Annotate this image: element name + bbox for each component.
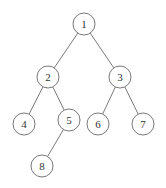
node-label: 6 — [95, 118, 101, 130]
tree-node-1: 1 — [73, 13, 95, 35]
node-label: 4 — [21, 118, 27, 130]
nodes: 1 2 3 4 5 6 7 8 — [13, 13, 154, 177]
node-label: 2 — [45, 71, 51, 83]
tree-node-4: 4 — [13, 113, 35, 135]
node-label: 1 — [81, 18, 87, 30]
tree-node-2: 2 — [37, 66, 59, 88]
node-label: 7 — [140, 118, 146, 130]
tree-node-3: 3 — [109, 66, 131, 88]
tree-node-7: 7 — [132, 113, 154, 135]
node-label: 5 — [66, 114, 72, 126]
edges — [24, 24, 143, 166]
tree-node-5: 5 — [58, 109, 80, 131]
node-label: 3 — [117, 71, 123, 83]
node-label: 8 — [39, 160, 45, 172]
tree-diagram: 1 2 3 4 5 6 7 8 — [0, 0, 166, 188]
tree-node-6: 6 — [87, 113, 109, 135]
tree-node-8: 8 — [31, 155, 53, 177]
